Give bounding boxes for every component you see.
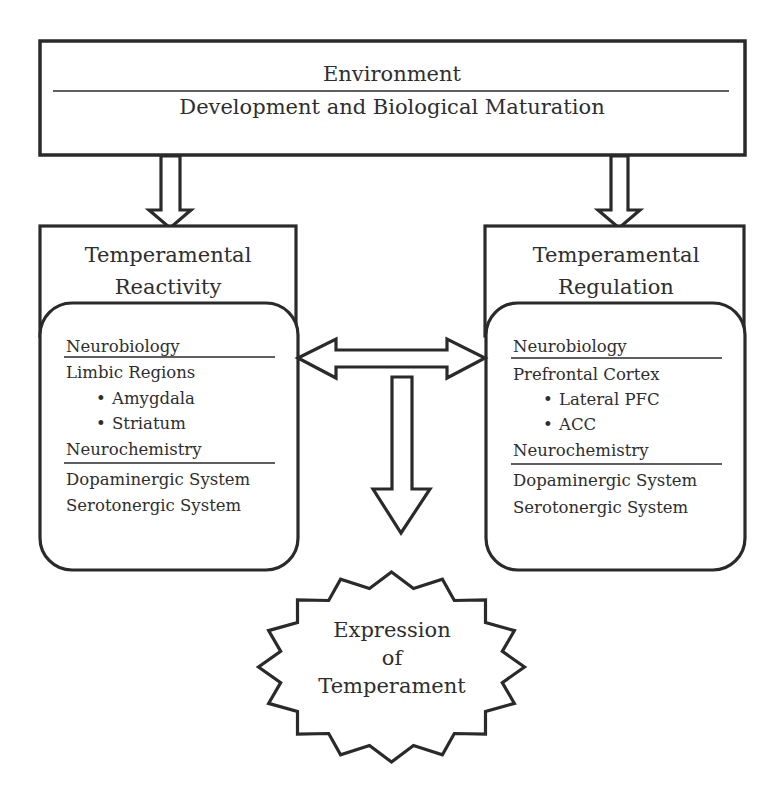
reactivity-neurochemistry-heading: Neurochemistry [66,440,202,459]
regulation-dopaminergic: Dopaminergic System [513,471,698,490]
down-arrow-right [598,156,640,228]
environment-label: Environment [323,62,462,86]
down-arrow-center [373,377,430,533]
bullet-icon: • [96,389,106,408]
bullet-icon: • [543,415,553,434]
temperament-diagram: Environment Development and Biological M… [0,0,781,789]
bullet-icon: • [543,390,553,409]
regulation-bullet-lateral-pfc: Lateral PFC [559,390,660,409]
reactivity-serotonergic: Serotonergic System [66,496,242,515]
bullet-icon: • [96,414,106,433]
regulation-serotonergic: Serotonergic System [513,498,689,517]
reactivity-title-line1: Temperamental [85,243,252,267]
regulation-title-line1: Temperamental [533,243,700,267]
regulation-panel: Temperamental Regulation Neurobiology Pr… [485,226,745,570]
regulation-neurochemistry-heading: Neurochemistry [513,441,649,460]
regulation-neurobiology-heading: Neurobiology [513,337,627,356]
reactivity-neurobiology-heading: Neurobiology [66,337,180,356]
regulation-bullet-acc: ACC [558,415,596,434]
reactivity-dopaminergic: Dopaminergic System [66,470,251,489]
reactivity-bullet-striatum: Striatum [112,414,186,433]
reactivity-title-line2: Reactivity [115,275,222,299]
bidirectional-arrow [298,339,485,378]
development-label: Development and Biological Maturation [179,95,604,119]
expression-line2: of [382,646,405,670]
regulation-region-label: Prefrontal Cortex [513,365,660,384]
regulation-title-line2: Regulation [558,275,674,299]
expression-line1: Expression [333,618,451,642]
reactivity-region-label: Limbic Regions [66,363,195,382]
expression-line3: Temperament [318,674,466,698]
environment-box: Environment Development and Biological M… [40,41,745,155]
expression-starburst: Expression of Temperament [259,572,525,762]
reactivity-bullet-amygdala: Amygdala [111,389,195,408]
down-arrow-left [149,156,191,228]
reactivity-panel: Temperamental Reactivity Neurobiology Li… [40,226,298,570]
